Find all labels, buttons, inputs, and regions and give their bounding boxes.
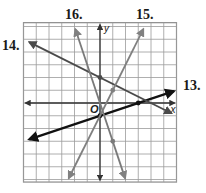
line-15-point xyxy=(110,88,115,93)
line-14-label: 14. xyxy=(2,38,20,53)
line-16-point xyxy=(110,139,115,144)
line-13-label: 13. xyxy=(183,78,201,93)
line-14-point xyxy=(98,75,103,80)
y-axis-label: y xyxy=(103,23,110,34)
line-15-label: 15. xyxy=(136,7,154,22)
origin-label: O xyxy=(90,103,99,115)
line-13-point xyxy=(136,101,141,106)
line-16-label: 16. xyxy=(65,7,83,22)
coordinate-graph: xyO 13.14.15.16. xyxy=(0,0,206,193)
